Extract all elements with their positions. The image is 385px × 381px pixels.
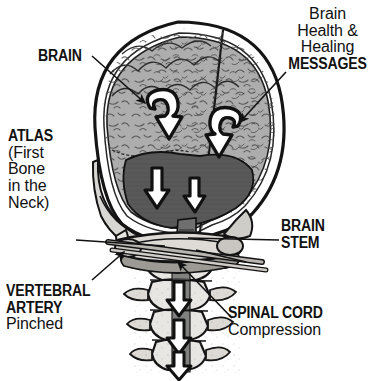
callout-brain-heading: BRAIN bbox=[38, 48, 82, 65]
anatomical-figure: BRAIN ATLAS (First Bone in the Neck) VER… bbox=[0, 0, 385, 381]
callout-messages-line-1: Brain bbox=[283, 6, 372, 23]
callout-spinal-cord-subtext: Compression bbox=[228, 322, 336, 339]
callout-vertebral-artery: VERTEBRAL ARTERY Pinched bbox=[6, 283, 102, 333]
callout-messages: Brain Health & Healing MESSAGES bbox=[283, 6, 372, 73]
callout-brain-stem-heading-1: BRAIN bbox=[281, 218, 325, 235]
callout-messages-heading: MESSAGES bbox=[288, 56, 366, 73]
callout-atlas-line-2: Bone bbox=[8, 161, 59, 178]
callout-atlas: ATLAS (First Bone in the Neck) bbox=[8, 128, 59, 211]
callout-brain-stem: BRAIN STEM bbox=[281, 218, 331, 251]
callout-atlas-line-1: (First bbox=[8, 145, 59, 162]
leader-vertebral-artery bbox=[92, 252, 124, 280]
callout-vertebral-artery-heading-1: VERTEBRAL bbox=[6, 283, 90, 300]
callout-atlas-line-3: in the bbox=[8, 178, 59, 195]
callout-brain: BRAIN bbox=[38, 48, 88, 65]
callout-spinal-cord: SPINAL CORD Compression bbox=[228, 305, 336, 338]
callout-atlas-line-4: Neck) bbox=[8, 195, 59, 212]
callout-messages-line-3: Healing bbox=[283, 39, 372, 56]
callout-brain-stem-heading-2: STEM bbox=[281, 235, 325, 252]
callout-spinal-cord-heading: SPINAL CORD bbox=[228, 305, 323, 322]
callout-messages-line-2: Health & bbox=[283, 23, 372, 40]
callout-vertebral-artery-heading-2: ARTERY bbox=[6, 300, 90, 317]
callout-atlas-heading: ATLAS bbox=[8, 128, 53, 145]
callout-vertebral-artery-subtext: Pinched bbox=[6, 316, 102, 333]
